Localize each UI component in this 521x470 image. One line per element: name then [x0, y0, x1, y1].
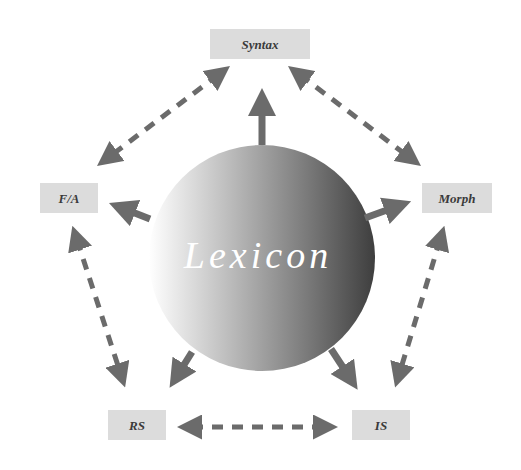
- node-label: Morph: [438, 191, 476, 206]
- node-label: IS: [374, 418, 387, 433]
- node-morph: Morph: [422, 183, 492, 213]
- node-fa: F/A: [40, 183, 98, 213]
- link-morph-is: [398, 240, 440, 378]
- arrow-to-rs: [177, 352, 192, 376]
- node-label: Syntax: [242, 37, 279, 52]
- lexicon-diagram: Lexicon Syntax Morph IS RS F/A: [0, 0, 521, 470]
- arrow-to-morph: [365, 206, 398, 218]
- node-label: RS: [128, 418, 145, 433]
- node-is: IS: [352, 410, 410, 440]
- lexicon-label: Lexicon: [183, 234, 332, 276]
- arrow-to-fa: [122, 208, 150, 219]
- arrow-to-is: [331, 349, 350, 378]
- link-syntax-morph: [300, 75, 413, 160]
- node-syntax: Syntax: [210, 29, 310, 59]
- link-fa-rs: [77, 240, 122, 378]
- node-label: F/A: [58, 191, 80, 206]
- node-rs: RS: [108, 410, 166, 440]
- link-syntax-fa: [105, 75, 218, 160]
